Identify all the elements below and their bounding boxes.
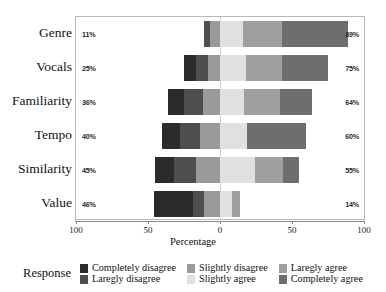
bar-segment-laregly-agree [243, 21, 282, 47]
legend-label-completely-agree: Completely agree [291, 273, 363, 284]
legend-column: Slightly disagreeSlightly agree [187, 262, 268, 284]
bar-segment-laregly-disagree [180, 123, 200, 149]
y-axis-label-value: Value [0, 196, 72, 210]
legend-swatch-laregly-disagree [80, 275, 88, 284]
bar-row: 45%55% [76, 157, 364, 183]
x-axis-tick-label: 100 [69, 225, 83, 235]
y-axis-label-familiarity: Familiarity [0, 94, 72, 108]
bar-segment-laregly-disagree [193, 191, 205, 217]
bar-segment-slightly-agree [220, 191, 232, 217]
x-axis-tick [364, 221, 365, 224]
bar-segment-completely-agree [282, 55, 328, 81]
legend-swatch-stack [187, 262, 195, 284]
x-axis-title: Percentage [0, 236, 386, 247]
plot-area: 11%89%25%75%36%64%40%60%45%55%46%14% [75, 16, 365, 220]
bar-row: 25%75% [76, 55, 364, 81]
x-axis-tick [76, 221, 77, 224]
x-axis-tick [292, 221, 293, 224]
disagree-total-label: 36% [82, 98, 96, 107]
legend-label-slightly-disagree: Slightly disagree [199, 262, 268, 273]
y-axis-label-tempo: Tempo [0, 128, 72, 142]
y-axis-label-similarity: Similarity [0, 162, 72, 176]
bar-segment-slightly-disagree [208, 55, 220, 81]
bar-segment-completely-disagree [168, 89, 184, 115]
bar-segment-laregly-disagree [174, 157, 196, 183]
x-axis-tick-label: 50 [144, 225, 153, 235]
bar-row: 46%14% [76, 191, 364, 217]
bar-segment-completely-agree [283, 157, 299, 183]
disagree-total-label: 25% [82, 64, 96, 73]
bar-segment-laregly-agree [246, 55, 282, 81]
bar-row: 36%64% [76, 89, 364, 115]
bar-rows-container: 11%89%25%75%36%64%40%60%45%55%46%14% [76, 17, 364, 219]
bar-segment-laregly-agree [232, 191, 241, 217]
y-axis-label-vocals: Vocals [0, 60, 72, 74]
x-axis-tick-label: 50 [288, 225, 297, 235]
x-axis-tick-label: 0 [218, 225, 223, 235]
x-axis-tick-label: 100 [357, 225, 371, 235]
legend-label-laregly-disagree: Laregly disagree [92, 273, 176, 284]
bar-segment-slightly-agree [220, 123, 247, 149]
legend-label-stack: Completely disagreeLaregly disagree [92, 262, 176, 284]
bar-segment-laregly-disagree [196, 55, 209, 81]
bar-segment-slightly-agree [220, 21, 243, 47]
legend-swatch-slightly-disagree [187, 264, 195, 273]
legend-swatch-laregly-agree [279, 264, 287, 273]
bar-row: 40%60% [76, 123, 364, 149]
legend-columns: Completely disagreeLaregly disagreeSligh… [80, 262, 363, 284]
likert-chart-figure: 11%89%25%75%36%64%40%60%45%55%46%14% Gen… [0, 0, 386, 292]
bar-segment-completely-disagree [184, 55, 196, 81]
legend-label-completely-disagree: Completely disagree [92, 262, 176, 273]
bar-segment-slightly-agree [220, 157, 255, 183]
legend: Response Completely disagreeLaregly disa… [0, 256, 386, 290]
legend-swatch-completely-agree [279, 275, 287, 284]
bar-segment-completely-disagree [155, 157, 174, 183]
agree-total-label: 89% [345, 30, 359, 39]
bar-row: 11%89% [76, 21, 364, 47]
legend-swatch-completely-disagree [80, 264, 88, 273]
x-axis-tick [148, 221, 149, 224]
agree-total-label: 55% [345, 166, 359, 175]
agree-total-label: 75% [345, 64, 359, 73]
bar-segment-completely-disagree [162, 123, 179, 149]
legend-column: Laregly agreeCompletely agree [279, 262, 363, 284]
agree-total-label: 14% [345, 200, 359, 209]
disagree-total-label: 46% [82, 200, 96, 209]
bar-segment-completely-disagree [154, 191, 193, 217]
x-axis-tick [220, 221, 221, 224]
y-axis-label-genre: Genre [0, 26, 72, 40]
bar-segment-laregly-agree [255, 157, 284, 183]
bar-segment-slightly-disagree [196, 157, 220, 183]
bar-segment-slightly-disagree [204, 191, 220, 217]
legend-swatch-slightly-agree [187, 275, 195, 284]
bar-segment-completely-agree [247, 123, 306, 149]
bar-segment-slightly-agree [220, 89, 244, 115]
disagree-total-label: 40% [82, 132, 96, 141]
legend-label-slightly-agree: Slightly agree [199, 273, 268, 284]
disagree-total-label: 45% [82, 166, 96, 175]
bar-segment-slightly-disagree [200, 123, 220, 149]
agree-total-label: 64% [345, 98, 359, 107]
bar-segment-slightly-agree [220, 55, 246, 81]
legend-label-stack: Slightly disagreeSlightly agree [199, 262, 268, 284]
legend-swatch-stack [80, 262, 88, 284]
bar-segment-slightly-disagree [210, 21, 220, 47]
bar-segment-laregly-disagree [204, 21, 210, 47]
bar-segment-completely-agree [280, 89, 312, 115]
bar-segment-slightly-disagree [203, 89, 220, 115]
legend-swatch-stack [279, 262, 287, 284]
bar-segment-laregly-agree [244, 89, 280, 115]
bar-segment-laregly-disagree [184, 89, 203, 115]
bar-segment-completely-agree [282, 21, 348, 47]
legend-column: Completely disagreeLaregly disagree [80, 262, 176, 284]
agree-total-label: 60% [345, 132, 359, 141]
disagree-total-label: 11% [82, 30, 95, 39]
legend-label-stack: Laregly agreeCompletely agree [291, 262, 363, 284]
legend-label-laregly-agree: Laregly agree [291, 262, 363, 273]
legend-title: Response [23, 266, 71, 281]
